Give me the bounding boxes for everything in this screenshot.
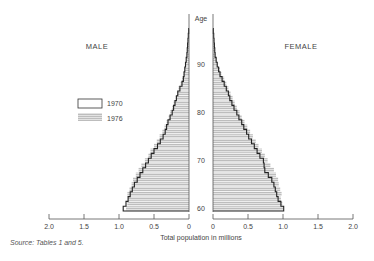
bar-male-1976	[154, 144, 189, 148]
legend-swatch-1976	[78, 113, 102, 121]
x-axis-title: Total population in millions	[160, 234, 242, 242]
bar-female-1976	[213, 153, 265, 157]
bar-male-1976	[126, 206, 189, 210]
female-x-tick-label: 0.5	[243, 223, 253, 230]
bar-male-1976	[177, 91, 189, 95]
bar-female-1976	[213, 177, 278, 181]
bar-male-1976	[139, 168, 189, 172]
bar-male-1976	[136, 173, 189, 177]
age-tick-labels: 60708090	[197, 61, 205, 212]
female-x-axis: 00.51.01.52.0	[211, 214, 358, 230]
bar-female-1976	[213, 110, 240, 114]
legend-swatch-1970	[78, 99, 102, 108]
source-note: Source: Tables 1 and 5.	[10, 239, 84, 246]
bar-male-1976	[128, 197, 189, 201]
bar-female-1976	[213, 163, 270, 167]
male-x-tick-label: 1.0	[114, 223, 124, 230]
male-x-tick-label: 1.5	[79, 223, 89, 230]
bar-male-1976	[172, 105, 189, 109]
bar-female-1976	[213, 187, 280, 191]
bar-male-1976	[141, 163, 189, 167]
age-axis-label: Age	[195, 15, 208, 23]
bar-male-1976	[176, 96, 189, 100]
bar-female-1976	[213, 158, 268, 162]
bar-male-1976	[160, 134, 189, 138]
bar-male-1976	[167, 120, 189, 124]
bar-male-1976	[162, 129, 189, 133]
bar-male-1976	[185, 67, 189, 71]
age-tick-label: 70	[197, 157, 205, 164]
bar-male-1976	[130, 187, 190, 191]
male-x-tick-label: 0.5	[149, 223, 159, 230]
bar-female-1976	[213, 125, 247, 129]
bar-male-1976	[170, 110, 189, 114]
bar-male-1976	[157, 139, 189, 143]
female-side-label: FEMALE	[284, 42, 317, 51]
bar-male-1976	[133, 177, 189, 181]
bar-female-1976	[213, 149, 262, 153]
bar-male-1976	[127, 201, 189, 205]
bar-female-1976	[213, 192, 282, 196]
population-pyramid-chart: Age 60708090 MALE FEMALE 1970 1976 2.01.…	[0, 0, 374, 261]
bar-female-1976	[213, 197, 281, 201]
bar-female-1976	[213, 105, 237, 109]
male-x-axis: 2.01.51.00.50	[44, 214, 191, 230]
bar-male-1976	[169, 115, 189, 119]
age-tick-label: 60	[197, 205, 205, 212]
series-1976-bars	[126, 29, 283, 211]
male-x-tick-label: 0	[187, 223, 191, 230]
female-x-tick-label: 1.5	[313, 223, 323, 230]
female-x-tick-label: 2.0	[348, 223, 358, 230]
bar-female-1976	[213, 120, 245, 124]
female-x-tick-label: 0	[211, 223, 215, 230]
bar-female-1976	[213, 182, 279, 186]
legend-label-1970: 1970	[107, 100, 123, 107]
bar-female-1976	[213, 139, 256, 143]
bar-female-1976	[213, 173, 276, 177]
bar-male-1976	[145, 158, 189, 162]
male-side-label: MALE	[86, 42, 108, 51]
legend-label-1976: 1976	[107, 115, 123, 122]
bar-male-1976	[151, 149, 190, 153]
bar-male-1976	[127, 192, 189, 196]
bar-male-1976	[165, 125, 190, 129]
bar-female-1976	[213, 134, 253, 138]
bar-female-1976	[213, 206, 283, 210]
female-x-tick-label: 1.0	[278, 223, 288, 230]
bar-female-1976	[213, 115, 242, 119]
bar-female-1976	[213, 201, 282, 205]
bar-male-1976	[174, 101, 189, 105]
bar-male-1976	[148, 153, 189, 157]
bar-male-1976	[132, 182, 189, 186]
legend: 1970 1976	[78, 99, 123, 122]
male-x-tick-label: 2.0	[44, 223, 54, 230]
bar-female-1976	[213, 144, 259, 148]
bar-female-1976	[213, 129, 250, 133]
age-tick-label: 80	[197, 109, 205, 116]
age-tick-label: 90	[197, 61, 205, 68]
